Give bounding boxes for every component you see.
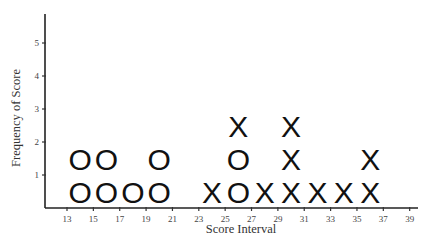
x-marker: X (228, 110, 248, 143)
y-tick-label: 5 (35, 38, 40, 48)
x-marker: X (281, 143, 301, 176)
x-marker: X (255, 176, 275, 209)
x-tick-label: 13 (63, 214, 73, 224)
y-axis-title: Frequency of Score (9, 69, 23, 167)
x-tick-label: 15 (89, 214, 99, 224)
o-marker: O (148, 143, 171, 176)
x-marker: X (360, 143, 380, 176)
y-tick-label: 1 (35, 170, 40, 180)
x-tick-label: 21 (168, 214, 177, 224)
x-marker: X (307, 176, 327, 209)
x-axis-title: Score Interval (206, 222, 277, 236)
y-tick-label: 4 (35, 71, 40, 81)
x-tick-label: 39 (405, 214, 415, 224)
x-tick-label: 33 (326, 214, 336, 224)
o-marker: O (121, 176, 144, 209)
x-marker: X (334, 176, 354, 209)
x-tick-label: 37 (379, 214, 389, 224)
data-marks: OOOOOOOXOOXXXXXXXXX (69, 110, 381, 209)
x-tick-label: 17 (115, 214, 125, 224)
o-marker: O (227, 176, 250, 209)
o-marker: O (148, 176, 171, 209)
x-tick-label: 31 (300, 214, 309, 224)
x-marker: X (360, 176, 380, 209)
y-tick-label: 2 (35, 137, 40, 147)
dot-plot-chart: 12345 1315171921232527293133353739 OOOOO… (0, 0, 431, 250)
x-marker: X (202, 176, 222, 209)
x-tick-label: 35 (352, 214, 362, 224)
o-marker: O (95, 143, 118, 176)
o-marker: O (95, 176, 118, 209)
x-marker: X (281, 176, 301, 209)
x-marker: X (281, 110, 301, 143)
y-tick-label: 3 (35, 104, 40, 114)
o-marker: O (69, 143, 92, 176)
x-tick-label: 19 (142, 214, 152, 224)
o-marker: O (69, 176, 92, 209)
o-marker: O (227, 143, 250, 176)
x-tick-label: 23 (194, 214, 204, 224)
